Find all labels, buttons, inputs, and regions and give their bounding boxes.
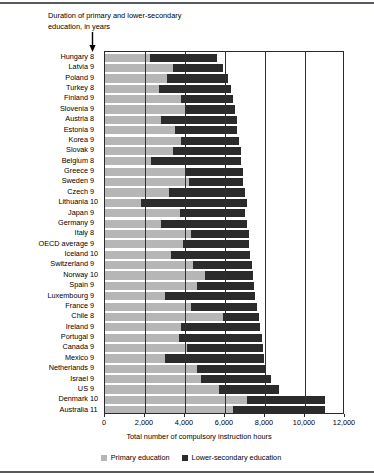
gridline: [185, 52, 186, 413]
x-tick-label: 8,000: [255, 418, 273, 427]
annotation-line-1: Duration of primary and lower-secondary: [48, 11, 263, 22]
bar-segment-primary: [105, 385, 219, 393]
bar-segment-primary: [105, 292, 165, 300]
bar-segment-lower-secondary: [169, 188, 245, 196]
legend-item-lower-secondary: Lower-secondary education: [182, 453, 282, 462]
bar-segment-primary: [105, 74, 167, 82]
bar-segment-lower-secondary: [150, 54, 217, 62]
bar-segment-primary: [105, 64, 173, 72]
bar-segment-primary: [105, 354, 165, 362]
bar-segment-primary: [105, 54, 150, 62]
x-tick-mark: [304, 414, 305, 417]
bar-segment-lower-secondary: [185, 105, 235, 113]
bar-segment-lower-secondary: [193, 261, 252, 269]
bar-segment-lower-secondary: [180, 209, 245, 217]
bar-segment-lower-secondary: [189, 178, 243, 186]
bar-segment-lower-secondary: [247, 396, 325, 404]
x-tick-label: 6,000: [215, 418, 233, 427]
x-tick-label: 10,000: [293, 418, 315, 427]
bar-segment-primary: [105, 334, 179, 342]
x-tick-label: 0: [102, 418, 106, 427]
bar-segment-lower-secondary: [183, 240, 249, 248]
bar-segment-lower-secondary: [173, 147, 241, 155]
bar-segment-lower-secondary: [159, 85, 231, 93]
gridline: [145, 52, 146, 413]
legend-item-primary: Primary education: [101, 453, 170, 462]
bar-segment-primary: [105, 220, 161, 228]
bar-segment-primary: [105, 303, 191, 311]
bar-segment-primary: [105, 406, 233, 414]
bar-segment-lower-secondary: [165, 292, 255, 300]
bar-segment-lower-secondary: [233, 406, 325, 414]
bar-segment-lower-secondary: [191, 303, 257, 311]
legend-label-primary: Primary education: [111, 453, 170, 462]
bar-segment-primary: [105, 137, 181, 145]
bar-segment-primary: [105, 375, 201, 383]
bar-segment-primary: [105, 178, 189, 186]
bar-segment-lower-secondary: [171, 251, 250, 259]
x-tick-label: 2,000: [135, 418, 153, 427]
bar-segment-primary: [105, 230, 191, 238]
bar-segment-lower-secondary: [219, 385, 279, 393]
bar-segment-lower-secondary: [197, 365, 265, 373]
bar-segment-primary: [105, 126, 175, 134]
bar-segment-primary: [105, 323, 181, 331]
bar-segment-lower-secondary: [185, 168, 243, 176]
bar-segment-lower-secondary: [191, 230, 249, 238]
bar-segment-primary: [105, 251, 171, 259]
bar-segment-primary: [105, 261, 193, 269]
bar-segment-lower-secondary: [179, 334, 262, 342]
down-arrow-icon: [88, 32, 97, 52]
x-tick-label: 4,000: [175, 418, 193, 427]
chart-legend: Primary education Lower-secondary educat…: [0, 452, 374, 462]
x-tick-label: 12,000: [333, 418, 355, 427]
category-axis-labels: Hungary8Latvia9Poland9Turkey8Finland9Slo…: [0, 51, 104, 414]
bar-segment-lower-secondary: [165, 354, 264, 362]
bar-rows: [105, 52, 343, 413]
x-tick-mark: [344, 414, 345, 417]
gridline: [225, 52, 226, 413]
legend-swatch-lower-secondary-icon: [182, 455, 188, 461]
x-tick-mark: [184, 414, 185, 417]
legend-swatch-primary-icon: [101, 455, 107, 461]
bar-segment-primary: [105, 209, 180, 217]
bar-segment-primary: [105, 365, 197, 373]
x-axis-title: Total number of compulsory instruction h…: [0, 432, 374, 441]
x-axis-title-text: Total number of compulsory instruction h…: [126, 432, 271, 441]
bar-segment-lower-secondary: [181, 323, 260, 331]
x-axis-ticks: 02,0004,0006,0008,00010,00012,000: [0, 414, 374, 430]
x-tick-mark: [224, 414, 225, 417]
bar-segment-primary: [105, 116, 161, 124]
bar-segment-lower-secondary: [161, 220, 247, 228]
bar-segment-lower-secondary: [167, 74, 228, 82]
bar-row: [105, 405, 343, 414]
bar-segment-primary: [105, 95, 181, 103]
x-tick-mark: [104, 414, 105, 417]
bar-segment-lower-secondary: [173, 64, 223, 72]
bar-segment-primary: [105, 282, 197, 290]
bar-segment-lower-secondary: [141, 199, 247, 207]
bar-segment-lower-secondary: [181, 137, 239, 145]
bar-segment-primary: [105, 271, 205, 279]
gridline: [265, 52, 266, 413]
bar-segment-lower-secondary: [201, 375, 271, 383]
bar-segment-primary: [105, 313, 223, 321]
bar-segment-lower-secondary: [205, 271, 253, 279]
x-tick-mark: [264, 414, 265, 417]
plot-area: [104, 51, 344, 414]
bar-segment-primary: [105, 85, 159, 93]
bar-segment-primary: [105, 199, 141, 207]
legend-label-lower-secondary: Lower-secondary education: [192, 453, 282, 462]
annotation-line-2: education, in years: [48, 22, 263, 33]
bar-segment-lower-secondary: [151, 157, 241, 165]
x-tick-mark: [144, 414, 145, 417]
gridline: [305, 52, 306, 413]
bar-segment-lower-secondary: [223, 313, 259, 321]
bar-segment-primary: [105, 344, 187, 352]
bar-segment-primary: [105, 188, 169, 196]
bottom-divider: [0, 471, 374, 473]
chart-figure: Duration of primary and lower-secondary …: [0, 0, 374, 476]
duration-annotation: Duration of primary and lower-secondary …: [48, 11, 263, 32]
top-divider: [0, 2, 374, 4]
bar-segment-primary: [105, 147, 173, 155]
